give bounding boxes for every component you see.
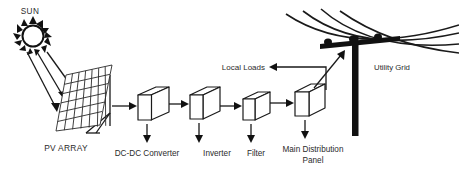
insulator-icon xyxy=(324,39,332,46)
sun-label: SUN xyxy=(21,7,40,16)
mdp-label-line1: Main Distribution xyxy=(283,145,344,154)
sun-disc-icon xyxy=(23,26,44,47)
filter-label: Filter xyxy=(247,149,265,158)
local-loads-label: Local Loads xyxy=(222,63,265,72)
pv-system-diagram: SUN xyxy=(0,0,459,173)
inverter-label: Inverter xyxy=(203,149,231,158)
pv-array-label: PV ARRAY xyxy=(44,143,88,153)
insulator-icon xyxy=(374,34,382,41)
dcdc-converter-label: DC-DC Converter xyxy=(115,149,180,158)
utility-pole-mast xyxy=(352,36,359,136)
utility-grid-label: Utility Grid xyxy=(374,63,410,72)
diagram-canvas: SUN xyxy=(0,0,459,173)
mdp-label-line2: Panel xyxy=(303,156,324,165)
